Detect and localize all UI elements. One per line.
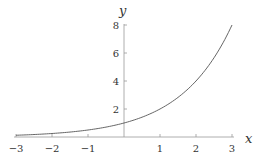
x-tick-label: −3 (9, 143, 24, 154)
y-tick-label: 4 (113, 76, 119, 87)
x-tick-label: 1 (157, 143, 163, 154)
exponential-chart: −3−2−11232468 x y (0, 0, 264, 165)
y-tick-label: 6 (113, 48, 119, 59)
y-axis-label: y (118, 3, 127, 18)
x-axis-label: x (245, 131, 253, 146)
x-tick-label: −2 (45, 143, 60, 154)
x-tick-label: −1 (81, 143, 96, 154)
x-tick-label: 3 (229, 143, 235, 154)
axes (14, 24, 234, 137)
x-tick-label: 2 (193, 143, 199, 154)
y-tick-label: 2 (113, 104, 119, 115)
y-tick-label: 8 (113, 20, 119, 31)
